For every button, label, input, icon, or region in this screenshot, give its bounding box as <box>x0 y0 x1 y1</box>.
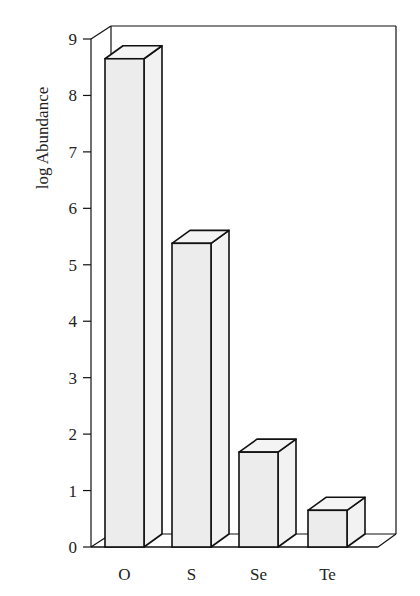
y-tick-label: 7 <box>69 143 78 162</box>
bar-te <box>308 497 365 547</box>
x-tick-label: S <box>187 565 196 584</box>
bar-chart: 0123456789 OSSeTe log Abundance <box>0 0 420 596</box>
bar-se <box>239 439 296 547</box>
bar-s <box>172 230 229 547</box>
x-tick-label: Se <box>250 565 267 584</box>
bar-o <box>105 46 162 547</box>
y-tick-label: 5 <box>69 256 78 275</box>
y-tick-label: 2 <box>69 425 78 444</box>
y-tick-label: 3 <box>69 369 78 388</box>
y-axis-label: log Abundance <box>33 87 52 189</box>
bars <box>105 46 365 547</box>
x-axis-labels: OSSeTe <box>118 565 336 584</box>
y-tick-label: 1 <box>69 482 78 501</box>
x-tick-label: O <box>118 565 130 584</box>
y-tick-label: 4 <box>69 312 78 331</box>
x-tick-label: Te <box>319 565 336 584</box>
y-tick-label: 6 <box>69 199 78 218</box>
y-tick-label: 8 <box>69 86 78 105</box>
y-tick-label: 0 <box>69 538 78 557</box>
y-tick-label: 9 <box>69 30 78 49</box>
y-axis-ticks: 0123456789 <box>69 30 92 557</box>
